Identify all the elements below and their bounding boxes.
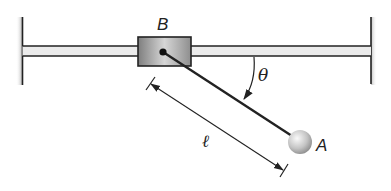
left-wall [16, 17, 23, 85]
horizontal-rod [23, 46, 372, 56]
length-dimension [146, 77, 288, 177]
label-length: ℓ [202, 131, 209, 151]
pendulum-slider-diagram: B A θ ℓ [0, 0, 391, 191]
angle-theta-arc [244, 57, 254, 99]
label-a: A [315, 136, 327, 155]
pivot-pin [159, 48, 166, 55]
label-theta: θ [258, 65, 268, 85]
ball-a [288, 130, 312, 154]
label-b: B [157, 15, 168, 34]
pendulum-arm [163, 52, 292, 136]
right-wall [371, 17, 377, 85]
